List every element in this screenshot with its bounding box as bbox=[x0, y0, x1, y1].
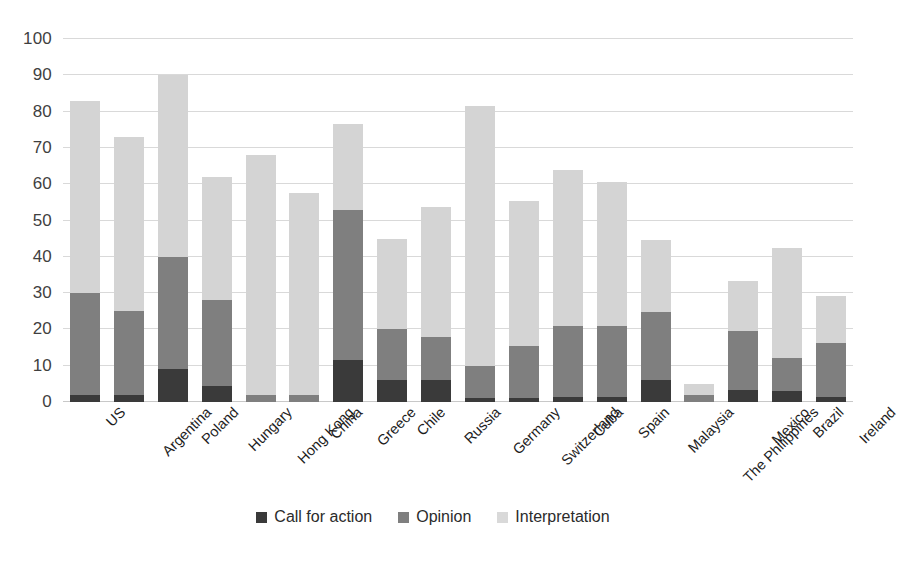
bar-segment[interactable] bbox=[684, 395, 714, 402]
bar-segment[interactable] bbox=[377, 380, 407, 402]
x-tick-china: China bbox=[327, 404, 365, 442]
y-tick-30: 30 bbox=[33, 283, 52, 303]
x-tick-germany: Germany bbox=[509, 404, 562, 457]
y-tick-50: 50 bbox=[33, 211, 52, 231]
bar-segment[interactable] bbox=[597, 397, 627, 402]
bar-segment[interactable] bbox=[70, 101, 100, 293]
bar-segment[interactable] bbox=[597, 326, 627, 397]
y-tick-90: 90 bbox=[33, 65, 52, 85]
legend-swatch-icon bbox=[398, 512, 409, 523]
bar-segment[interactable] bbox=[333, 124, 363, 209]
bar-segment[interactable] bbox=[377, 329, 407, 380]
bar-segment[interactable] bbox=[70, 293, 100, 395]
bar-segment[interactable] bbox=[772, 391, 802, 402]
bar-segment[interactable] bbox=[158, 369, 188, 402]
bar-segment[interactable] bbox=[728, 390, 758, 402]
bar-segment[interactable] bbox=[772, 248, 802, 358]
bar-segment[interactable] bbox=[202, 177, 232, 300]
bar-segment[interactable] bbox=[114, 137, 144, 311]
bar-segment[interactable] bbox=[289, 193, 319, 394]
legend-label: Call for action bbox=[274, 508, 372, 526]
y-tick-70: 70 bbox=[33, 138, 52, 158]
x-tick-hungary: Hungary bbox=[245, 404, 295, 454]
x-tick-ireland: Ireland bbox=[856, 404, 899, 447]
bar-segment[interactable] bbox=[816, 343, 846, 396]
x-tick-us: US bbox=[103, 404, 129, 430]
bars-container bbox=[63, 39, 853, 402]
y-tick-0: 0 bbox=[42, 392, 52, 412]
plot-area bbox=[63, 39, 853, 402]
bar-segment[interactable] bbox=[816, 397, 846, 402]
x-tick-malaysia: Malaysia bbox=[684, 404, 736, 456]
bar-segment[interactable] bbox=[641, 380, 671, 402]
bar-segment[interactable] bbox=[728, 331, 758, 391]
bar-segment[interactable] bbox=[816, 296, 846, 343]
bar-segment[interactable] bbox=[158, 257, 188, 370]
legend-item[interactable]: Call for action bbox=[256, 508, 372, 526]
bar-segment[interactable] bbox=[509, 346, 539, 399]
bar-segment[interactable] bbox=[202, 300, 232, 385]
bar-segment[interactable] bbox=[246, 155, 276, 395]
y-axis-tick-labels: 0102030405060708090100 bbox=[0, 39, 52, 402]
bar-segment[interactable] bbox=[772, 358, 802, 391]
bar-segment[interactable] bbox=[246, 395, 276, 402]
bar-segment[interactable] bbox=[421, 337, 451, 381]
bar-segment[interactable] bbox=[333, 360, 363, 402]
bar-segment[interactable] bbox=[728, 281, 758, 331]
bar-segment[interactable] bbox=[597, 182, 627, 326]
legend-item[interactable]: Interpretation bbox=[497, 508, 609, 526]
bar-segment[interactable] bbox=[202, 386, 232, 402]
y-tick-40: 40 bbox=[33, 247, 52, 267]
x-tick-cuba: Cuba bbox=[590, 404, 626, 440]
bar-segment[interactable] bbox=[509, 398, 539, 402]
legend-swatch-icon bbox=[497, 512, 508, 523]
bar-segment[interactable] bbox=[553, 397, 583, 402]
bar-segment[interactable] bbox=[641, 312, 671, 380]
x-tick-russia: Russia bbox=[461, 404, 504, 447]
x-tick-greece: Greece bbox=[374, 404, 419, 449]
y-tick-100: 100 bbox=[23, 29, 52, 49]
legend-swatch-icon bbox=[256, 512, 267, 523]
bar-segment[interactable] bbox=[465, 398, 495, 402]
bar-segment[interactable] bbox=[684, 384, 714, 395]
legend-label: Interpretation bbox=[515, 508, 609, 526]
y-tick-10: 10 bbox=[33, 356, 52, 376]
bar-segment[interactable] bbox=[377, 239, 407, 329]
bar-segment[interactable] bbox=[114, 395, 144, 402]
chart-legend: Call for actionOpinionInterpretation bbox=[0, 508, 866, 526]
bar-segment[interactable] bbox=[465, 106, 495, 366]
y-tick-20: 20 bbox=[33, 319, 52, 339]
bar-segment[interactable] bbox=[333, 210, 363, 361]
bar-segment[interactable] bbox=[553, 326, 583, 397]
bar-segment[interactable] bbox=[641, 240, 671, 313]
bar-segment[interactable] bbox=[289, 395, 319, 402]
bar-segment[interactable] bbox=[421, 380, 451, 402]
bar-segment[interactable] bbox=[421, 207, 451, 336]
x-axis-tick-labels: USArgentinaPolandHungaryHong KongChinaGr… bbox=[63, 404, 853, 504]
bar-segment[interactable] bbox=[158, 75, 188, 257]
x-tick-spain: Spain bbox=[634, 404, 672, 442]
bar-segment[interactable] bbox=[114, 311, 144, 394]
bar-segment[interactable] bbox=[465, 366, 495, 399]
bar-segment[interactable] bbox=[553, 170, 583, 326]
y-tick-80: 80 bbox=[33, 102, 52, 122]
bar-segment[interactable] bbox=[70, 395, 100, 402]
legend-label: Opinion bbox=[416, 508, 471, 526]
legend-item[interactable]: Opinion bbox=[398, 508, 471, 526]
x-tick-chile: Chile bbox=[414, 404, 449, 439]
y-tick-60: 60 bbox=[33, 174, 52, 194]
bar-segment[interactable] bbox=[509, 201, 539, 346]
